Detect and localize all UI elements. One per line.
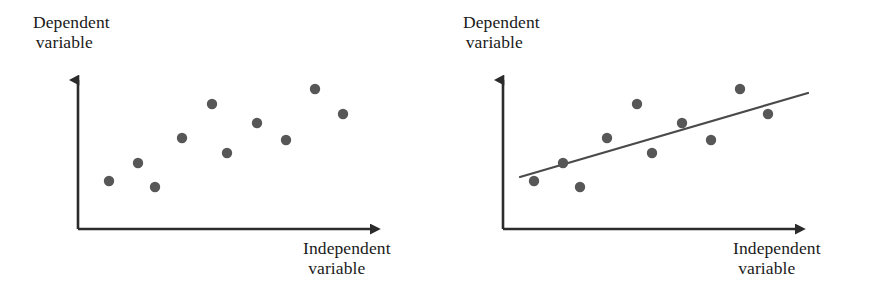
data-point [647, 148, 657, 158]
data-point [602, 133, 612, 143]
data-point [150, 182, 160, 192]
data-point [281, 135, 291, 145]
y-axis-label-line1: Dependent [463, 12, 540, 32]
y-axis-label: Dependent variable [33, 12, 110, 52]
data-point [310, 84, 320, 94]
data-point [763, 109, 773, 119]
x-axis-label-line1: Independent [303, 238, 391, 258]
data-point [575, 182, 585, 192]
data-point [207, 99, 217, 109]
y-axis-label-line1: Dependent [33, 12, 110, 32]
y-axis-label-line2: variable [463, 32, 540, 52]
data-point [735, 84, 745, 94]
panel-scatter-no-line: Dependent variable Independent variable [0, 0, 445, 301]
data-point [558, 158, 568, 168]
y-axis-label: Dependent variable [463, 12, 540, 52]
x-axis-label-line2: variable [733, 258, 821, 278]
panel-scatter-with-line: Dependent variable Independent variable [444, 0, 889, 301]
scatterplot-figure: Dependent variable Independent variable [0, 0, 889, 301]
data-point [338, 109, 348, 119]
data-point-group [104, 84, 348, 192]
x-axis-label: Independent variable [303, 238, 391, 278]
data-point [632, 99, 642, 109]
data-point [677, 118, 687, 128]
data-point [706, 135, 716, 145]
data-point [133, 158, 143, 168]
data-point [252, 118, 262, 128]
x-axis-label-line1: Independent [733, 238, 821, 258]
x-axis-label-line2: variable [303, 258, 391, 278]
y-axis-label-line2: variable [33, 32, 110, 52]
data-point [177, 133, 187, 143]
data-point [104, 176, 114, 186]
x-axis-label: Independent variable [733, 238, 821, 278]
data-point [529, 176, 539, 186]
data-point [222, 148, 232, 158]
